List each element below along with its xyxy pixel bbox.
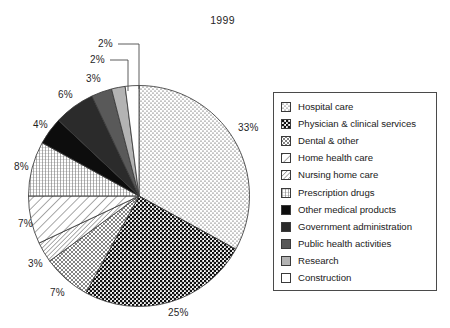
legend-item-dental-and-other[interactable]: Dental & other [281,132,432,149]
slice-label-nursing-home-care: 3% [28,258,43,269]
legend-item-label: Other medical products [298,205,396,215]
leader-line-construction [118,44,139,89]
legend-item-government-administration[interactable]: Government administration [281,218,432,235]
slice-label-hospital-care: 33% [238,122,259,133]
legend-item-construction[interactable]: Construction [281,270,432,287]
legend-swatch-icon [281,273,291,283]
legend-swatch-icon [281,119,291,129]
legend-swatch-icon [281,188,291,198]
legend-item-label: Research [298,256,339,266]
legend-item-label: Physician & clinical services [298,119,416,129]
legend-item-label: Prescription drugs [298,188,374,198]
legend-swatch-icon [281,205,291,215]
legend-item-label: Government administration [298,222,412,232]
legend-item-physician-clinical-services[interactable]: Physician & clinical services [281,115,432,132]
legend-item-label: Hospital care [298,102,353,112]
legend-swatch-icon [281,239,291,249]
chart-canvas: 1999 [0,0,450,328]
legend-item-label: Dental & other [298,136,359,146]
slice-label-home-health-care: 7% [18,218,33,229]
legend-item-label: Home health care [298,153,373,163]
legend-item-research[interactable]: Research [281,253,432,270]
legend-swatch-icon [281,222,291,232]
legend-item-nursing-home-care[interactable]: Nursing home care [281,167,432,184]
legend-swatch-icon [281,102,291,112]
slice-label-physician-clinical: 25% [168,307,189,318]
slice-label-research: 2% [90,54,105,65]
legend-item-label: Construction [298,273,351,283]
legend-swatch-icon [281,256,291,266]
legend-item-public-health-activities[interactable]: Public health activities [281,236,432,253]
legend-item-prescription-drugs[interactable]: Prescription drugs [281,184,432,201]
slice-label-prescription-drugs: 8% [14,161,29,172]
legend-swatch-icon [281,170,291,180]
slice-label-other-medical: 4% [33,119,48,130]
legend-swatch-icon [281,153,291,163]
leader-lines [110,44,139,91]
legend-item-label: Public health activities [298,239,391,249]
legend-item-label: Nursing home care [298,170,378,180]
legend-item-home-health-care[interactable]: Home health care [281,150,432,167]
legend: Hospital carePhysician & clinical servic… [273,92,437,291]
slice-label-construction: 2% [98,38,113,49]
slice-label-dental-and-other: 7% [50,287,65,298]
slice-label-government-admin: 6% [58,89,73,100]
legend-item-other-medical-products[interactable]: Other medical products [281,201,432,218]
legend-swatch-icon [281,136,291,146]
slice-label-public-health: 3% [86,73,101,84]
pie-slices [29,86,250,307]
legend-item-hospital-care[interactable]: Hospital care [281,98,432,115]
